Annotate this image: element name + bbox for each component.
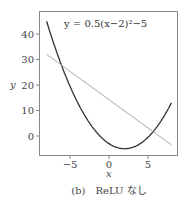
y-tick-label: 20	[21, 80, 34, 91]
y-tick-label: 0	[28, 131, 34, 142]
x-tick-label: −5	[63, 159, 78, 170]
x-axis-label: x	[106, 168, 112, 179]
series-group	[47, 21, 172, 149]
y-tick-label: 40	[21, 29, 34, 40]
y-tick-label: 30	[21, 54, 34, 65]
y-axis-label: y	[9, 79, 16, 90]
x-tick-label: 5	[145, 159, 151, 170]
chart: 010203040 −505 y = 0.5(x−2)²−5 x y	[0, 0, 188, 204]
y-axis-ticks: 010203040	[21, 29, 39, 142]
equation-annotation: y = 0.5(x−2)²−5	[63, 18, 147, 29]
y-tick-label: 10	[21, 105, 34, 116]
linear-series	[47, 54, 172, 144]
figure-caption: (b) ReLU なし	[0, 182, 188, 197]
parabola-series	[47, 21, 172, 149]
